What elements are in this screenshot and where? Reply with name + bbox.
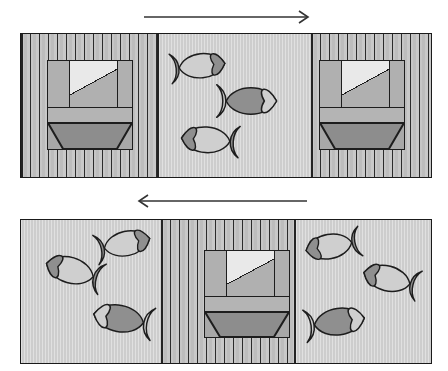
emblem-diagonal-triangle — [320, 61, 404, 107]
diagram-canvas — [0, 0, 448, 371]
emblem-sail-section — [320, 61, 404, 108]
emblem-right — [319, 60, 405, 150]
emblem-hull-background — [48, 123, 132, 149]
emblem-deck-band — [48, 108, 132, 123]
arrow-right — [138, 9, 313, 25]
right-block-right-edge — [431, 34, 432, 177]
emblem-hull-background — [320, 123, 404, 149]
emblem-diagonal-triangle — [205, 251, 289, 296]
emblem-diagonal-triangle — [48, 61, 132, 107]
right-block-left-edge — [311, 34, 313, 177]
center-block-left-edge — [161, 220, 163, 363]
emblem-hull-outline — [320, 123, 404, 149]
fish-3 — [175, 117, 244, 164]
emblem-sail-section — [48, 61, 132, 108]
arrow-left — [134, 193, 313, 209]
emblem-deck-band — [205, 297, 289, 312]
emblem-sail-section — [205, 251, 289, 297]
fish-head — [261, 89, 276, 113]
fish-9 — [299, 295, 372, 348]
fish-tail — [229, 126, 240, 158]
emblem-left — [47, 60, 133, 150]
emblem-center — [204, 250, 290, 338]
left-block-left-edge — [21, 34, 23, 177]
emblem-hull-section — [48, 123, 132, 149]
fish-2 — [214, 79, 282, 123]
emblem-hull-background — [205, 312, 289, 337]
fish-tail — [217, 85, 226, 118]
emblem-hull-outline — [48, 123, 132, 149]
emblem-hull-section — [205, 312, 289, 337]
emblem-deck-band — [320, 108, 404, 123]
emblem-hull-section — [320, 123, 404, 149]
emblem-hull-outline — [205, 312, 289, 337]
